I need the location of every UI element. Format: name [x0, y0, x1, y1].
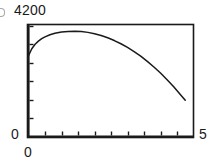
graph-figure: 4200 0 0 5 [0, 0, 212, 164]
y-axis-ticks [30, 27, 34, 119]
x-axis-ticks [46, 132, 178, 136]
data-curve [29, 31, 186, 100]
plot-canvas [0, 0, 212, 164]
